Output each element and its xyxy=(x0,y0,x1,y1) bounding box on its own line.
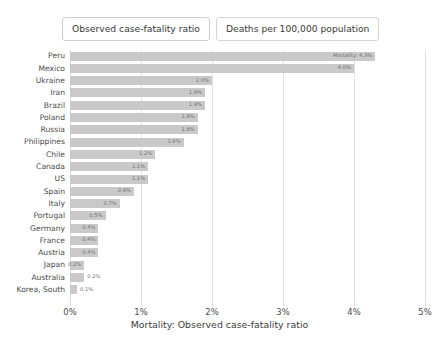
bar-row[interactable]: PeruMortality: 4.3% xyxy=(70,50,425,62)
gridline-5% xyxy=(425,50,426,302)
bar-row[interactable]: Canada1.1% xyxy=(70,161,425,173)
category-label-peru: Peru xyxy=(48,51,65,61)
bar[interactable] xyxy=(70,273,84,282)
bar-row[interactable]: US1.1% xyxy=(70,173,425,185)
category-label-austria: Austria xyxy=(38,248,65,258)
tick-label-5%: 5% xyxy=(418,307,431,317)
bar-row[interactable]: Chile1.2% xyxy=(70,148,425,160)
bar-value-label: 1.1% xyxy=(132,163,148,170)
bar[interactable] xyxy=(70,101,205,110)
bar-value-label: 1.9% xyxy=(189,101,205,108)
bar-chart: PeruMortality: 4.3%Mexico4.0%Ukraine2.0%… xyxy=(0,47,439,339)
category-label-germany: Germany xyxy=(30,224,65,234)
category-label-korea-south: Korea, South xyxy=(17,285,65,295)
bar-value-label: 0.1% xyxy=(77,286,93,293)
category-label-ukraine: Ukraine xyxy=(36,76,65,86)
bar[interactable] xyxy=(70,113,198,122)
category-label-japan: Japan xyxy=(44,260,65,270)
category-label-france: France xyxy=(40,236,65,246)
plot-area: PeruMortality: 4.3%Mexico4.0%Ukraine2.0%… xyxy=(70,50,425,302)
bar-value-label: 0.5% xyxy=(89,212,105,219)
bar[interactable] xyxy=(70,64,354,73)
bar-value-label: 0.7% xyxy=(104,200,120,207)
tick-label-3%: 3% xyxy=(276,307,289,317)
bar-row[interactable]: Australia0.2% xyxy=(70,271,425,283)
tick-mark xyxy=(354,302,355,306)
category-label-russia: Russia xyxy=(41,125,65,135)
bar-value-label: 0.2% xyxy=(84,273,100,280)
bar-row[interactable]: Korea, South0.1% xyxy=(70,284,425,296)
tick-mark xyxy=(283,302,284,306)
category-label-us: US xyxy=(55,174,65,184)
category-label-canada: Canada xyxy=(36,162,65,172)
bar-value-label: 1.6% xyxy=(167,138,183,145)
bar-row[interactable]: Ukraine2.0% xyxy=(70,75,425,87)
bar-value-label: 1.1% xyxy=(132,175,148,182)
bar-row[interactable]: Italy0.7% xyxy=(70,198,425,210)
tick-mark xyxy=(425,302,426,306)
bar-value-label: 2.0% xyxy=(196,77,212,84)
bar-row[interactable]: Portugal0.5% xyxy=(70,210,425,222)
tick-mark xyxy=(141,302,142,306)
tick-label-1%: 1% xyxy=(134,307,147,317)
bar[interactable] xyxy=(70,125,198,134)
bar-value-label: 4.0% xyxy=(338,64,354,71)
tick-mark xyxy=(70,302,71,306)
tick-label-4%: 4% xyxy=(347,307,360,317)
category-label-brazil: Brazil xyxy=(44,101,65,111)
bar-value-label: 1.8% xyxy=(182,126,198,133)
bar-value-label: 1.8% xyxy=(182,113,198,120)
category-label-italy: Italy xyxy=(49,199,65,209)
bar-value-label: 1.9% xyxy=(189,89,205,96)
bar-row[interactable]: Japan0.2% xyxy=(70,259,425,271)
category-label-poland: Poland xyxy=(40,113,65,123)
tab-deaths-per-100000-population[interactable]: Deaths per 100,000 population xyxy=(216,17,379,41)
tab-label: Observed case-fatality ratio xyxy=(72,23,200,34)
bar-value-label: 0.2% xyxy=(68,261,84,268)
category-label-spain: Spain xyxy=(44,187,65,197)
category-label-portugal: Portugal xyxy=(34,211,65,221)
tick-label-0%: 0% xyxy=(63,307,76,317)
category-label-iran: Iran xyxy=(50,88,65,98)
bar-row[interactable]: Iran1.9% xyxy=(70,87,425,99)
bar-row[interactable]: Mexico4.0% xyxy=(70,62,425,74)
bar-row[interactable]: Poland1.8% xyxy=(70,111,425,123)
tick-label-2%: 2% xyxy=(205,307,218,317)
bar[interactable] xyxy=(70,76,212,85)
bar-value-label: 0.9% xyxy=(118,187,134,194)
bar-value-label: 0.4% xyxy=(82,224,98,231)
bar-row[interactable]: Germany0.4% xyxy=(70,222,425,234)
tab-label: Deaths per 100,000 population xyxy=(226,23,369,34)
bar-value-label: 0.4% xyxy=(82,236,98,243)
category-label-mexico: Mexico xyxy=(38,64,65,74)
bar-value-label: 0.4% xyxy=(82,249,98,256)
bar-row[interactable]: France0.4% xyxy=(70,234,425,246)
bar-value-label: Mortality: 4.3% xyxy=(333,52,375,59)
bar-row[interactable]: Austria0.4% xyxy=(70,247,425,259)
bar-row[interactable]: Russia1.8% xyxy=(70,124,425,136)
category-label-philippines: Philippines xyxy=(24,137,65,147)
bar-row[interactable]: Philippines1.6% xyxy=(70,136,425,148)
tab-observed-case-fatality-ratio[interactable]: Observed case-fatality ratio xyxy=(62,17,210,41)
bar-rows: PeruMortality: 4.3%Mexico4.0%Ukraine2.0%… xyxy=(70,50,425,296)
bar-row[interactable]: Brazil1.9% xyxy=(70,99,425,111)
tick-mark xyxy=(212,302,213,306)
category-label-australia: Australia xyxy=(31,273,65,283)
bar[interactable] xyxy=(70,285,77,294)
chart-page: Observed case-fatality ratio Deaths per … xyxy=(0,0,439,339)
bar[interactable] xyxy=(70,52,375,61)
bar-row[interactable]: Spain0.9% xyxy=(70,185,425,197)
x-axis-title: Mortality: Observed case-fatality ratio xyxy=(0,319,439,330)
bar[interactable] xyxy=(70,88,205,97)
category-label-chile: Chile xyxy=(46,150,65,160)
tabbar: Observed case-fatality ratio Deaths per … xyxy=(62,17,379,41)
bar-value-label: 1.2% xyxy=(139,150,155,157)
